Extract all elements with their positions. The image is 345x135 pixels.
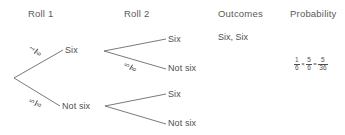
fraction-numerator: 5 — [320, 57, 326, 64]
fraction-denominator: 36 — [318, 64, 327, 72]
branch-notsix-to-six — [105, 94, 166, 106]
node-label-roll2-lower-six: Six — [168, 89, 181, 99]
node-label-roll2-upper-six: Six — [168, 34, 181, 44]
probability-expression-six-six: 1 6 × 5 6 = 5 36 — [294, 57, 328, 72]
branch-notsix-to-notsix — [105, 106, 166, 124]
probability-result: 5 36 — [318, 57, 327, 72]
probability-tree-diagram: Roll 1 Roll 2 Outcomes Probability Six N… — [0, 0, 345, 135]
outcome-six-six: Six, Six — [218, 32, 248, 42]
node-label-roll2-lower-notsix: Not six — [168, 118, 196, 128]
node-label-roll1-six: Six — [65, 45, 78, 55]
node-label-roll2-upper-notsix: Not six — [168, 63, 196, 73]
branch-six-to-six — [104, 39, 166, 51]
node-label-roll1-notsix: Not six — [62, 101, 90, 111]
